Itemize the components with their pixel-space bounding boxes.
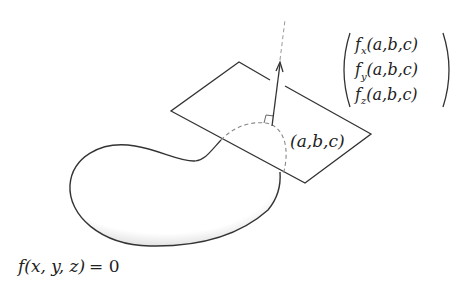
gradient-vector: fx(a,b,c) fy(a,b,c) fz(a,b,c) [344, 33, 449, 107]
gradient-row-x: fx(a,b,c) [354, 35, 418, 56]
level-surface-blob [70, 140, 280, 246]
gradient-row-z: fz(a,b,c) [354, 85, 418, 106]
diagram-svg: (a,b,c) fx(a,b,c) fy(a,b,c) fz(a,b,c) f(… [0, 0, 473, 292]
surface-neck-curve [195, 140, 221, 161]
normal-arrow [272, 62, 283, 126]
point-label: (a,b,c) [290, 131, 345, 151]
diagram-canvas: (a,b,c) fx(a,b,c) fy(a,b,c) fz(a,b,c) f(… [0, 0, 473, 292]
right-paren [443, 33, 449, 107]
surface-equation-label: f(x, y, z)= 0 [16, 256, 120, 276]
gradient-row-y: fy(a,b,c) [354, 60, 418, 82]
left-paren [344, 33, 350, 107]
dashed-normal-line [280, 20, 285, 60]
